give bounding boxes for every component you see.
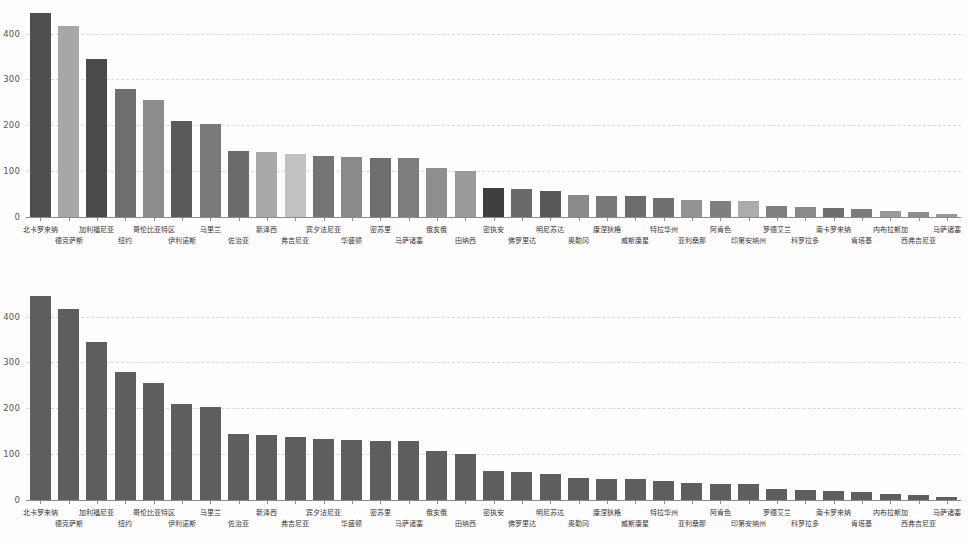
x-axis-category-label: 内布拉斯加 bbox=[873, 226, 908, 234]
bar[interactable] bbox=[568, 195, 589, 217]
x-axis-tick bbox=[295, 500, 296, 504]
x-axis-tick bbox=[40, 500, 41, 504]
bar[interactable] bbox=[256, 152, 277, 217]
bar[interactable] bbox=[171, 404, 192, 500]
x-axis-tick bbox=[919, 217, 920, 221]
bar[interactable] bbox=[455, 171, 476, 217]
bar[interactable] bbox=[58, 26, 79, 217]
x-axis-tick bbox=[182, 500, 183, 504]
x-axis-tick bbox=[862, 500, 863, 504]
x-axis-tick bbox=[125, 500, 126, 504]
bar[interactable] bbox=[171, 121, 192, 217]
x-axis-category-label: 内布拉斯加 bbox=[873, 509, 908, 517]
bar[interactable] bbox=[200, 407, 221, 500]
bar[interactable] bbox=[710, 201, 731, 218]
x-axis-category-label: 纽约 bbox=[118, 520, 132, 528]
x-axis-tick bbox=[465, 217, 466, 221]
x-axis-tick bbox=[69, 217, 70, 221]
bar[interactable] bbox=[823, 491, 844, 500]
x-axis-tick bbox=[919, 500, 920, 504]
bar[interactable] bbox=[313, 439, 334, 500]
x-axis-category-label: 佐治亚 bbox=[228, 520, 249, 528]
x-axis-category-label: 俄亥俄 bbox=[426, 509, 447, 517]
bar[interactable] bbox=[823, 208, 844, 217]
bar[interactable] bbox=[681, 483, 702, 500]
x-axis-tick bbox=[777, 217, 778, 221]
bar[interactable] bbox=[766, 206, 787, 217]
bar[interactable] bbox=[483, 188, 504, 217]
bar[interactable] bbox=[115, 89, 136, 217]
bar[interactable] bbox=[398, 158, 419, 217]
bar[interactable] bbox=[851, 209, 872, 217]
bar[interactable] bbox=[228, 434, 249, 501]
bar[interactable] bbox=[653, 198, 674, 217]
bar[interactable] bbox=[426, 451, 447, 500]
bar[interactable] bbox=[143, 383, 164, 500]
bar[interactable] bbox=[738, 484, 759, 500]
bar[interactable] bbox=[86, 59, 107, 217]
x-axis-tick bbox=[635, 500, 636, 504]
bar[interactable] bbox=[795, 207, 816, 217]
bottom-chart-bars bbox=[26, 289, 961, 500]
x-axis-tick bbox=[267, 217, 268, 221]
bar[interactable] bbox=[511, 472, 532, 500]
bar[interactable] bbox=[738, 201, 759, 217]
x-axis-tick bbox=[522, 217, 523, 221]
x-axis-category-label: 西弗吉尼亚 bbox=[901, 520, 936, 528]
x-axis-tick bbox=[805, 500, 806, 504]
bar[interactable] bbox=[426, 168, 447, 217]
bar[interactable] bbox=[228, 151, 249, 218]
bar[interactable] bbox=[341, 440, 362, 500]
bar[interactable] bbox=[540, 474, 561, 500]
x-axis-category-label: 阿肯色 bbox=[710, 226, 731, 234]
bar[interactable] bbox=[483, 471, 504, 500]
x-axis-category-label: 华盛顿 bbox=[341, 237, 362, 245]
bar[interactable] bbox=[341, 157, 362, 217]
x-axis-category-label: 宾夕法尼亚 bbox=[306, 226, 341, 234]
bar[interactable] bbox=[710, 484, 731, 501]
bar[interactable] bbox=[370, 158, 391, 217]
x-axis-category-label: 南卡罗来纳 bbox=[816, 226, 851, 234]
bar[interactable] bbox=[681, 200, 702, 217]
bar[interactable] bbox=[795, 490, 816, 500]
bar[interactable] bbox=[30, 296, 51, 500]
bar[interactable] bbox=[568, 478, 589, 500]
x-axis-tick bbox=[834, 500, 835, 504]
bar[interactable] bbox=[596, 196, 617, 217]
x-axis-category-label: 密苏里 bbox=[370, 509, 391, 517]
bar[interactable] bbox=[200, 124, 221, 217]
y-axis-tick-label: 300 bbox=[3, 357, 20, 367]
bar[interactable] bbox=[511, 189, 532, 217]
x-axis-tick bbox=[494, 500, 495, 504]
bar[interactable] bbox=[285, 437, 306, 500]
x-axis-tick bbox=[890, 217, 891, 221]
x-axis-tick bbox=[862, 217, 863, 221]
bar[interactable] bbox=[625, 196, 646, 217]
bar[interactable] bbox=[398, 441, 419, 500]
bar[interactable] bbox=[115, 372, 136, 500]
bar[interactable] bbox=[625, 479, 646, 500]
x-axis-category-label: 华盛顿 bbox=[341, 520, 362, 528]
bar[interactable] bbox=[143, 100, 164, 217]
bar[interactable] bbox=[540, 191, 561, 217]
x-axis-category-label: 亚利桑那 bbox=[678, 520, 706, 528]
bar[interactable] bbox=[766, 489, 787, 500]
x-axis-tick bbox=[40, 217, 41, 221]
bar[interactable] bbox=[58, 309, 79, 500]
x-axis-category-label: 北卡罗来纳 bbox=[23, 509, 58, 517]
bottom-chart-x-labels: 北卡罗来纳德克萨斯加利福尼亚纽约哥伦比亚特区伊利诺斯马里兰佐治亚新泽西弗吉尼亚宾… bbox=[26, 507, 961, 541]
y-axis-tick-label: 100 bbox=[3, 166, 20, 176]
bar[interactable] bbox=[285, 154, 306, 217]
x-axis-category-label: 科罗拉多 bbox=[791, 520, 819, 528]
bar[interactable] bbox=[851, 492, 872, 500]
y-axis-tick-label: 400 bbox=[3, 29, 20, 39]
bar[interactable] bbox=[30, 13, 51, 217]
bar[interactable] bbox=[596, 479, 617, 500]
x-axis-category-label: 加利福尼亚 bbox=[79, 509, 114, 517]
bar[interactable] bbox=[313, 156, 334, 217]
bar[interactable] bbox=[653, 481, 674, 500]
bar[interactable] bbox=[256, 435, 277, 500]
bar[interactable] bbox=[455, 454, 476, 500]
bar[interactable] bbox=[86, 342, 107, 500]
bar[interactable] bbox=[370, 441, 391, 500]
